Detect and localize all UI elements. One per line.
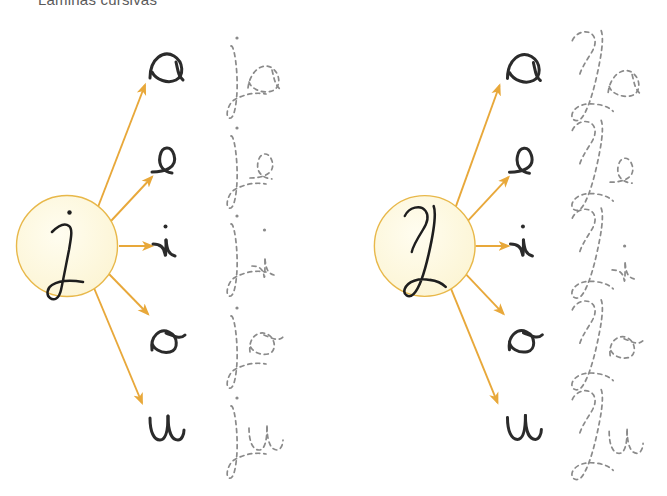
ray-to-o — [466, 274, 504, 314]
trace-syllable-ji — [227, 214, 274, 296]
trace-syllable-Je — [572, 120, 633, 210]
ray-to-e — [111, 177, 152, 221]
ray-to-e — [468, 177, 509, 221]
target-letter-u — [507, 415, 541, 439]
ray-to-a — [456, 85, 500, 207]
trace-syllable-Jo — [572, 300, 643, 390]
lowercase-j-panel — [0, 0, 333, 496]
ray-to-a — [98, 85, 145, 207]
target-letter-o — [509, 331, 542, 352]
trace-syllable-Ju — [572, 390, 643, 480]
target-letter-i — [153, 225, 175, 257]
uppercase-panel-graphics — [333, 0, 666, 496]
target-letter-e — [152, 148, 175, 173]
trace-syllable-ja — [227, 36, 280, 118]
target-letter-e — [509, 148, 532, 173]
target-letter-a — [150, 54, 183, 82]
target-letter-a — [507, 55, 540, 82]
lowercase-panel-graphics — [0, 0, 333, 496]
ray-to-u — [451, 288, 498, 403]
target-letter-o — [152, 331, 185, 352]
ray-to-u — [94, 288, 142, 403]
trace-syllable-ju — [227, 396, 283, 478]
trace-syllable-Ja — [572, 31, 640, 121]
ray-to-o — [109, 274, 148, 314]
trace-syllable-Ji — [572, 208, 634, 298]
uppercase-j-panel — [333, 0, 666, 496]
worksheet-canvas: Laminas cursivas — [0, 0, 667, 496]
target-letter-u — [150, 416, 184, 440]
trace-syllable-jo — [227, 306, 283, 388]
trace-syllable-je — [227, 126, 273, 208]
target-letter-i — [510, 225, 532, 256]
